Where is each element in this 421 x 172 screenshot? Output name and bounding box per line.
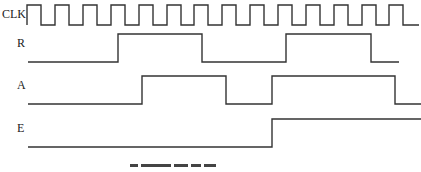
signal-label-a: A: [17, 79, 26, 91]
waveform-r: [28, 34, 399, 62]
waveform-clk: [27, 5, 419, 25]
waveform-e: [28, 119, 421, 147]
timing-diagram: [0, 0, 421, 172]
signal-label-clk: CLK: [2, 8, 26, 20]
signal-label-r: R: [17, 37, 25, 49]
signal-label-e: E: [17, 122, 24, 134]
waveform-a: [28, 76, 421, 104]
figure-caption-truncated: [130, 164, 240, 170]
